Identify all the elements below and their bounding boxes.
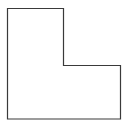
l-shape-diagram	[0, 0, 129, 120]
l-shape-outline	[8, 9, 121, 120]
